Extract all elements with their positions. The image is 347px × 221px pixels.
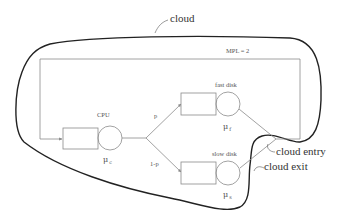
cpu-label: CPU xyxy=(97,111,110,118)
fast-disk-rate-label: μf xyxy=(223,122,232,132)
fast-disk-server xyxy=(216,92,240,116)
fast-disk-station: fast disk μf xyxy=(181,81,240,132)
slow-disk-server xyxy=(216,161,240,185)
cpu-rate-label: μc xyxy=(103,155,112,165)
cpu-station: CPU μc xyxy=(63,111,122,165)
slow-disk-station: slow disk μs xyxy=(181,150,240,200)
cloud-exit-leader xyxy=(254,167,264,171)
mpl-label: MPL = 2 xyxy=(226,47,249,54)
cloud-boundary xyxy=(16,36,321,209)
fast-disk-label: fast disk xyxy=(215,81,238,88)
branch-lower-label: 1-p xyxy=(150,160,159,167)
branch-upper-line xyxy=(146,104,181,138)
cloud-entry-label: cloud entry xyxy=(276,145,326,157)
slow-disk-rate-label: μs xyxy=(223,190,232,200)
cloud-label: cloud xyxy=(170,12,195,24)
slow-disk-queue xyxy=(181,162,216,184)
cloud-label-leader xyxy=(155,20,168,33)
branch-upper-label: p xyxy=(154,112,157,119)
cpu-server xyxy=(98,126,122,150)
cpu-queue xyxy=(63,128,98,149)
cloud-exit-label: cloud exit xyxy=(264,160,308,172)
closed-queueing-network-diagram: cloud MPL = 2 CPU μc p 1-p fast disk μf … xyxy=(0,0,347,221)
slow-disk-label: slow disk xyxy=(212,150,237,157)
fast-disk-queue xyxy=(181,93,216,115)
fast-disk-output-line xyxy=(239,109,276,139)
